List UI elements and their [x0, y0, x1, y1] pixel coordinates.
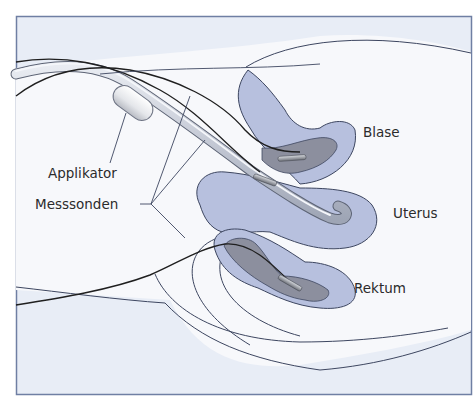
- anatomy-diagram: Applikator Messsonden Blase Uterus Rektu…: [0, 0, 475, 409]
- label-messsonden: Messsonden: [35, 196, 118, 212]
- label-applikator: Applikator: [48, 165, 117, 181]
- label-blase: Blase: [363, 124, 400, 140]
- label-rektum: Rektum: [354, 280, 406, 296]
- label-uterus: Uterus: [393, 205, 438, 221]
